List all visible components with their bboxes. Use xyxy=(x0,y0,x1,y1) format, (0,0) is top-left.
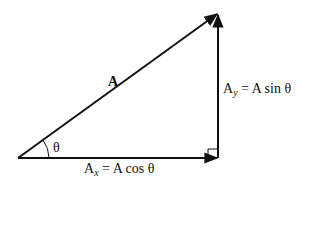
y-component-base: A xyxy=(223,81,233,96)
x-component-label: Ax = A cos θ xyxy=(84,162,154,178)
y-component-subscript: y xyxy=(233,87,237,98)
y-component-label: Ay = A sin θ xyxy=(223,82,291,98)
vector-a-label: A xyxy=(108,75,118,89)
y-component-equation: = A sin θ xyxy=(241,81,291,96)
x-component-base: A xyxy=(84,161,94,176)
angle-arc xyxy=(43,140,49,158)
angle-theta-label: θ xyxy=(53,141,60,155)
right-angle-marker xyxy=(208,149,218,158)
x-component-subscript: x xyxy=(94,167,98,178)
x-component-equation: = A cos θ xyxy=(102,161,154,176)
